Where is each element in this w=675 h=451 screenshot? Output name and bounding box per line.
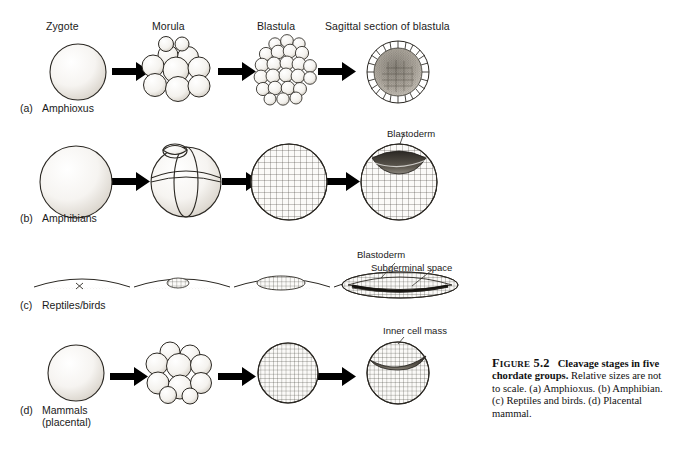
stage-b-cleavage: [151, 144, 221, 217]
stage-c-cleavage: [134, 278, 230, 290]
callout-blastoderm-reptile: Blastoderm: [357, 249, 405, 260]
row-letter-a: (a): [20, 102, 42, 114]
stage-d-blastula: [258, 343, 318, 403]
arrow-a3: [318, 62, 356, 81]
stage-d-zygote: [48, 345, 104, 405]
caption-spacer: [550, 358, 558, 369]
row-name-amphioxus: Amphioxus: [42, 102, 94, 114]
stage-b-blastula: [251, 144, 327, 220]
row-letter-d: (d): [20, 404, 42, 416]
row-label-amphioxus: (a)Amphioxus: [20, 102, 94, 114]
stage-b-sagittal-blastoderm: [361, 133, 437, 220]
row-name-amphibians: Amphibians: [42, 212, 97, 224]
arrow-d2: [218, 367, 256, 386]
arrow-group: [110, 62, 360, 386]
row-name-mammals: Mammals: [42, 404, 88, 416]
stage-a-sagittal-section: [367, 41, 429, 103]
stage-a-zygote: [50, 44, 106, 104]
callout-subgerminal-space: Subgerminal space: [371, 262, 452, 273]
stage-c-blastula: [234, 276, 330, 290]
caption-figure-number: Figure 5.2: [492, 356, 550, 370]
callout-blastoderm-amphibian: Blastoderm: [387, 128, 435, 139]
stage-d-inner-cell-mass: [367, 337, 429, 404]
row-name-reptiles-birds: Reptiles/birds: [42, 299, 106, 311]
stage-a-morula: [142, 37, 210, 102]
row-label-reptiles-birds: (c)Reptiles/birds: [20, 299, 106, 311]
row-label-mammals: (d)Mammals (placental): [20, 404, 91, 428]
row-letter-c: (c): [20, 299, 42, 311]
figure-caption: Figure 5.2 Cleavage stages in five chord…: [492, 357, 670, 420]
stage-a-blastula: [254, 35, 316, 106]
row-label-amphibians: (b)Amphibians: [20, 212, 97, 224]
row-letter-b: (b): [20, 212, 42, 224]
figure-cleavage-stages: Zygote Morula Blastula Sagittal section …: [0, 0, 675, 451]
arrow-d1: [110, 367, 148, 386]
arrow-b1: [112, 172, 150, 191]
row-d-mammals-stages: [48, 337, 429, 405]
callout-inner-cell-mass: Inner cell mass: [383, 325, 447, 336]
row-name-mammals-sub: (placental): [42, 416, 91, 428]
arrow-d3: [318, 367, 356, 386]
arrow-b3: [322, 172, 360, 191]
row-b-amphibians-stages: [40, 133, 437, 223]
stage-d-morula: [146, 342, 212, 404]
arrow-a2: [218, 62, 256, 81]
stage-c-zygote: [34, 279, 130, 290]
